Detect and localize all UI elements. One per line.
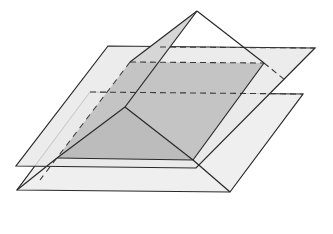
pyramid-planes-diagram: [0, 0, 333, 234]
diagram-canvas: [0, 0, 333, 234]
